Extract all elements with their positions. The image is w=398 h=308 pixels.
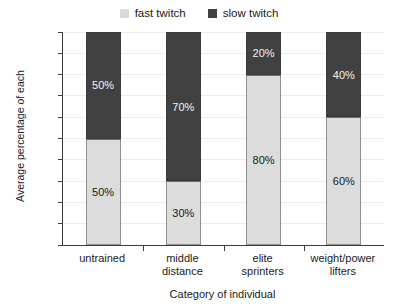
x-axis-label-line: untrained [56,252,148,265]
y-axis-title: Average percentage of each [14,26,26,246]
segment-fast-twitch[interactable]: 60% [326,117,361,245]
y-axis-tick [58,245,63,246]
y-axis-tick [58,138,63,139]
y-axis-tick [58,32,63,33]
segment-value-label: 40% [333,69,355,81]
bar-elite-sprinters[interactable]: 20%80% [246,32,281,245]
legend-label-slow-twitch: slow twitch [223,7,279,19]
segment-slow-twitch[interactable]: 20% [246,32,281,75]
y-axis-tick [58,159,63,160]
segment-value-label: 30% [172,207,194,219]
segment-slow-twitch[interactable]: 50% [86,32,121,139]
stacked-bar-chart: fast twitch slow twitch Average percenta… [0,0,398,308]
x-axis-label: elitesprinters [217,252,309,278]
x-axis-label-line: elite [217,252,309,265]
segment-fast-twitch[interactable]: 30% [166,181,201,245]
plot-area: 0%10%20%30%40%50%60%70%80%90%100%50%50%7… [62,32,384,246]
x-axis-label-line: sprinters [217,265,309,278]
segment-value-label: 80% [253,154,275,166]
segment-value-label: 20% [253,47,275,59]
x-axis-label: weight/powerlifters [297,252,389,278]
segment-value-label: 50% [92,79,114,91]
segment-value-label: 70% [172,101,194,113]
legend-label-fast-twitch: fast twitch [135,7,186,19]
fast-twitch-swatch-icon [120,9,129,18]
x-axis-label: untrained [56,252,148,265]
segment-fast-twitch[interactable]: 50% [86,139,121,246]
bar-untrained[interactable]: 50%50% [86,32,121,245]
x-axis-label-line: weight/power [297,252,389,265]
segment-value-label: 60% [333,175,355,187]
y-axis-tick [58,223,63,224]
segment-slow-twitch[interactable]: 40% [326,32,361,117]
y-axis-tick [58,181,63,182]
bar-middle-distance[interactable]: 70%30% [166,32,201,245]
segment-fast-twitch[interactable]: 80% [246,75,281,245]
y-axis-tick [58,95,63,96]
chart-legend: fast twitch slow twitch [0,4,398,22]
x-axis-label: middledistance [136,252,228,278]
x-axis-label-line: middle [136,252,228,265]
bar-weight-power-lifters[interactable]: 40%60% [326,32,361,245]
segment-value-label: 50% [92,186,114,198]
x-axis-label-line: lifters [297,265,389,278]
y-axis-tick [58,202,63,203]
legend-entry-fast-twitch: fast twitch [120,7,186,19]
segment-slow-twitch[interactable]: 70% [166,32,201,181]
y-axis-tick [58,74,63,75]
x-axis-title: Category of individual [62,288,383,300]
x-axis-label-line: distance [136,265,228,278]
y-axis-tick [58,53,63,54]
y-axis-tick [58,117,63,118]
x-axis-tick [143,245,144,251]
legend-entry-slow-twitch: slow twitch [208,7,279,19]
x-axis-tick [224,245,225,251]
x-axis-tick [304,245,305,251]
slow-twitch-swatch-icon [208,9,217,18]
